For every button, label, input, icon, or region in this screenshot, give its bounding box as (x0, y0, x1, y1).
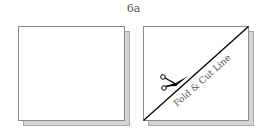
scissors-icon (161, 75, 188, 91)
fold-cut-line (144, 27, 249, 121)
fold-overlay: Fold & Cut Line (0, 0, 267, 132)
